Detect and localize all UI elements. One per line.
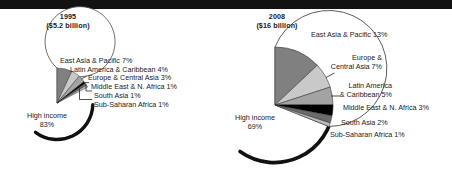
right-label-east-asia-pacific: East Asia & Pacific 13%	[311, 31, 387, 40]
right-chart-title: 2008 ($16 billion)	[234, 13, 320, 30]
left-chart-title-amount: ($5.2 billion)	[22, 22, 114, 31]
right-label-latin-america-caribbean: Latin America & Caribbean 5%	[280, 82, 392, 100]
right-label-high-income: High income 69%	[222, 114, 288, 132]
left-label-high-income-value: 83%	[16, 121, 78, 130]
figure-canvas: 1995 ($5.2 billion) East Asia & Pacific …	[0, 0, 452, 185]
right-label-latin-line2: & Caribbean 5%	[280, 91, 392, 100]
left-label-high-income: High income 83%	[16, 112, 78, 130]
right-label-high-income-value: 69%	[222, 123, 288, 132]
right-label-europe-central-asia: Europe & Central Asia 7%	[276, 54, 382, 72]
left-label-sub-saharan-africa: Sub-Saharan Africa 1%	[94, 101, 169, 110]
right-label-europe-line2: Central Asia 7%	[276, 63, 382, 72]
right-label-middle-east-n-africa: Middle East & N. Africa 3%	[343, 104, 429, 113]
right-label-south-asia: South Asia 2%	[341, 119, 388, 128]
left-chart-title: 1995 ($5.2 billion)	[22, 13, 114, 30]
right-label-sub-saharan-africa: Sub-Saharan Africa 1%	[330, 131, 405, 140]
right-chart-title-amount: ($16 billion)	[234, 22, 320, 31]
